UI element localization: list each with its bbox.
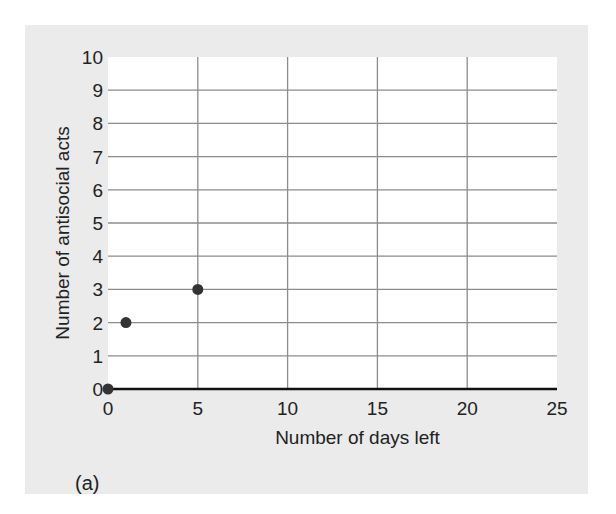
y-tick-label: 1	[92, 346, 103, 367]
data-point	[192, 284, 203, 295]
y-tick-label: 0	[92, 379, 103, 400]
data-point	[103, 384, 114, 395]
x-tick-label: 25	[546, 398, 567, 419]
x-axis-label: Number of days left	[275, 427, 440, 448]
y-tick-label: 5	[92, 213, 103, 234]
y-tick-label: 4	[92, 246, 103, 267]
y-tick-label: 8	[92, 113, 103, 134]
y-tick-label: 7	[92, 147, 103, 168]
y-tick-label: 2	[92, 313, 103, 334]
panel-label: (a)	[75, 472, 99, 495]
x-tick-label: 5	[193, 398, 204, 419]
scatter-plot: 0123456789100510152025Number of days lef…	[25, 25, 616, 514]
y-tick-label: 9	[92, 80, 103, 101]
figure-panel: 0123456789100510152025Number of days lef…	[25, 25, 588, 494]
x-tick-label: 0	[103, 398, 114, 419]
data-point	[120, 317, 131, 328]
x-tick-label: 15	[367, 398, 388, 419]
x-tick-label: 20	[457, 398, 478, 419]
x-tick-label: 10	[277, 398, 298, 419]
y-tick-label: 3	[92, 279, 103, 300]
y-tick-label: 10	[82, 47, 103, 68]
y-axis-label: Number of antisocial acts	[52, 126, 73, 339]
y-tick-label: 6	[92, 180, 103, 201]
